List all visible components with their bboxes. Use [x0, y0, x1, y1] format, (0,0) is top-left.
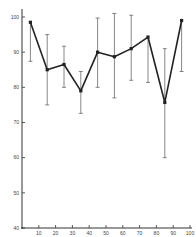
- y-tick-label: 90: [13, 49, 19, 55]
- data-point-marker: [29, 21, 32, 24]
- x-tick-label: 70: [137, 230, 143, 236]
- x-tick-label: 40: [86, 230, 92, 236]
- data-point-marker: [113, 55, 116, 58]
- data-point-marker: [62, 63, 65, 66]
- data-point-marker: [96, 51, 99, 54]
- data-point-marker: [46, 68, 49, 71]
- x-tick-label: 50: [103, 230, 109, 236]
- y-tick-label: 70: [13, 119, 19, 125]
- x-tick-label: 90: [170, 230, 176, 236]
- y-tick-label: 50: [13, 190, 19, 196]
- x-tick-label: 20: [53, 230, 59, 236]
- x-tick-label: 30: [70, 230, 76, 236]
- data-point-marker: [130, 47, 133, 50]
- x-tick-label: 10: [36, 230, 42, 236]
- x-tick-label: 80: [154, 230, 160, 236]
- data-point-marker: [79, 89, 82, 92]
- y-tick-label: 60: [13, 154, 19, 160]
- line-chart-with-error-bars: 405060708090100102030405060708090100: [0, 0, 196, 237]
- data-point-marker: [163, 101, 166, 104]
- y-tick-label: 40: [13, 225, 19, 231]
- series-line: [30, 21, 181, 103]
- x-tick-label: 100: [186, 230, 195, 236]
- data-point-marker: [180, 19, 183, 22]
- y-tick-label: 80: [13, 84, 19, 90]
- x-tick-label: 60: [120, 230, 126, 236]
- data-series: [29, 19, 183, 104]
- data-point-marker: [146, 35, 149, 38]
- y-tick-label: 100: [11, 14, 20, 20]
